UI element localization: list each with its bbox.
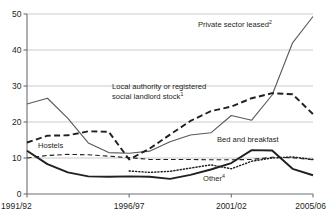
y-tick-label: 0 [17,189,22,199]
y-tick-label: 10 [12,153,22,163]
y-tick-label: 50 [12,9,22,19]
ann-local-authority: Local authority or registered [112,82,206,91]
ann-local-authority-2: social landlord stock1 [112,91,183,101]
x-tick-label: 1996/97 [114,201,145,211]
y-tick-label: 20 [12,117,22,127]
x-tick-label: 2005/06 [295,201,326,211]
y-tick-label: 40 [12,45,22,55]
x-tick-label: 2001/02 [216,201,247,211]
chart-canvas: 01020304050 1991/921996/972001/022005/06… [0,0,328,220]
ann-bed-and-breakfast: Bed and breakfast [217,135,280,144]
ann-other: Other4 [203,173,225,183]
y-tick-label: 30 [12,81,22,91]
chart-background [0,0,328,220]
ann-private-sector-leased: Private sector leased2 [198,19,272,29]
x-tick-label: 1991/92 [1,201,32,211]
line-chart: 01020304050 1991/921996/972001/022005/06… [0,0,328,220]
ann-hostels: Hostels [38,141,64,150]
